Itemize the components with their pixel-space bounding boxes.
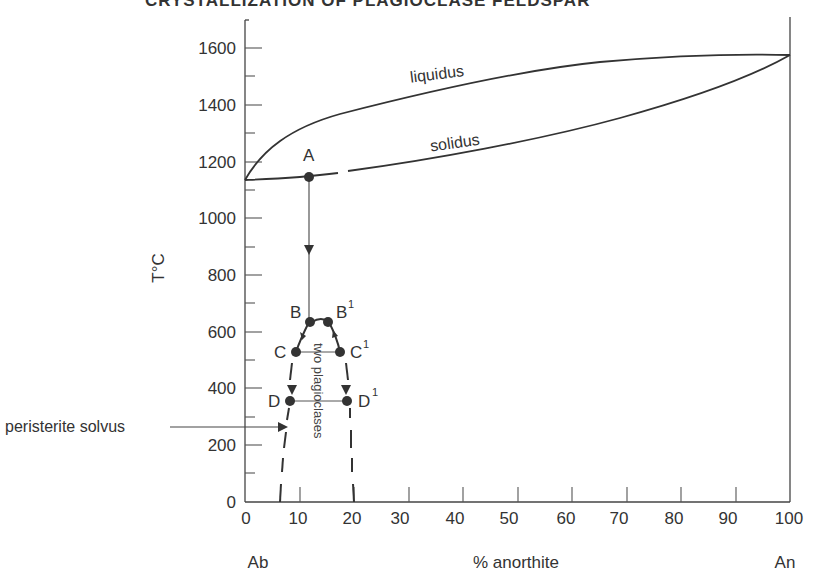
x-ticks [300, 487, 736, 502]
solidus-curve [245, 173, 338, 180]
two-plagioclases-label: two plagioclases [311, 343, 326, 439]
right-arrow-icon [278, 422, 288, 432]
phase-diagram: 1600 1400 1200 1000 800 600 400 200 0 0 … [0, 0, 818, 582]
point-B1-label: B [336, 303, 347, 322]
y-ticks [245, 48, 262, 473]
y-tick-label: 1600 [198, 39, 236, 58]
y-tick-label: 1400 [198, 96, 236, 115]
x-axis-label: % anorthite [473, 553, 559, 572]
point-A-label: A [303, 146, 315, 165]
down-arrow-icon [341, 385, 351, 395]
superscript: 1 [348, 298, 354, 310]
x-tick-label: 90 [719, 509, 738, 528]
point-D1-label: D [358, 392, 370, 411]
y-tick-label: 600 [208, 323, 236, 342]
superscript: 1 [363, 338, 369, 350]
point-D-label: D [268, 392, 280, 411]
y-tick-label: 800 [208, 266, 236, 285]
point-B-label: B [290, 303, 301, 322]
albite-end-label: Ab [248, 553, 269, 572]
superscript: 1 [372, 386, 378, 398]
y-tick-label: 400 [208, 379, 236, 398]
arrow-icon [332, 330, 338, 338]
x-tick-label: 0 [241, 509, 250, 528]
y-tick-labels: 1600 1400 1200 1000 800 600 400 200 0 [198, 39, 236, 512]
x-tick-label: 50 [500, 509, 519, 528]
point-C [291, 347, 301, 357]
point-D1 [342, 396, 352, 406]
anorthite-end-label: An [775, 553, 796, 572]
liquidus-label: liquidus [409, 62, 465, 85]
x-tick-label: 100 [775, 509, 803, 528]
y-axis-label: T°C [149, 253, 168, 282]
x-tick-label: 20 [343, 509, 362, 528]
point-C1-label: C [350, 343, 362, 362]
peristerite-solvus-label: peristerite solvus [5, 418, 125, 435]
point-B [305, 317, 315, 327]
down-arrow-icon [304, 245, 314, 255]
point-A [304, 172, 314, 182]
x-tick-labels: 0 10 20 30 40 50 60 70 80 90 100 [241, 509, 803, 528]
y-tick-label: 0 [227, 493, 236, 512]
x-tick-label: 40 [446, 509, 465, 528]
x-tick-label: 30 [391, 509, 410, 528]
y-tick-label: 1200 [198, 153, 236, 172]
point-D [285, 396, 295, 406]
down-arrow-icon [287, 385, 297, 395]
y-tick-label: 1000 [198, 209, 236, 228]
point-C-label: C [274, 343, 286, 362]
y-tick-label: 200 [208, 436, 236, 455]
x-tick-label: 10 [289, 509, 308, 528]
point-B1 [323, 317, 333, 327]
x-tick-label: 60 [557, 509, 576, 528]
x-tick-label: 70 [610, 509, 629, 528]
liquidus-curve [245, 55, 790, 180]
point-C1 [335, 347, 345, 357]
x-tick-label: 80 [665, 509, 684, 528]
